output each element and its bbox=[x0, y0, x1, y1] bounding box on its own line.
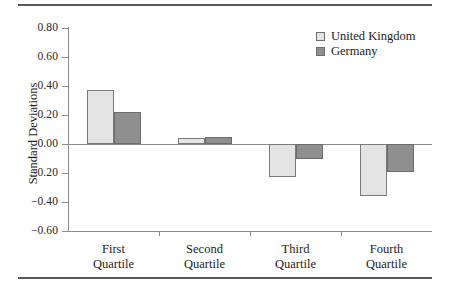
y-tick-label: 0.80 bbox=[12, 22, 58, 34]
y-tick-mark bbox=[62, 115, 68, 116]
x-category-label-line: Quartile bbox=[159, 257, 251, 272]
bar-united-kingdom bbox=[178, 138, 205, 144]
y-axis-line bbox=[68, 27, 69, 232]
y-tick-label: 0.40 bbox=[12, 80, 58, 92]
y-tick-label: 0.20 bbox=[12, 109, 58, 121]
y-tick-mark bbox=[62, 202, 68, 203]
bar-united-kingdom bbox=[360, 144, 387, 196]
legend-item-de: Germany bbox=[316, 44, 415, 59]
bottom-rule bbox=[18, 277, 432, 279]
x-category-label: SecondQuartile bbox=[159, 242, 251, 272]
legend-item-label: United Kingdom bbox=[331, 29, 415, 44]
bar-germany bbox=[296, 144, 323, 159]
y-tick-mark bbox=[62, 86, 68, 87]
x-category-label: ThirdQuartile bbox=[250, 242, 342, 272]
x-tick-mark bbox=[341, 231, 342, 236]
chart-legend: United KingdomGermany bbox=[316, 29, 415, 59]
y-tick-mark bbox=[62, 231, 68, 232]
x-tick-mark bbox=[250, 231, 251, 236]
x-category-label: FourthQuartile bbox=[341, 242, 433, 272]
y-tick-label: 0.00 bbox=[12, 138, 58, 150]
legend-swatch-icon bbox=[316, 47, 325, 56]
x-category-label-line: Quartile bbox=[341, 257, 433, 272]
x-category-label-line: Third bbox=[250, 242, 342, 257]
legend-item-uk: United Kingdom bbox=[316, 29, 415, 44]
bar-united-kingdom bbox=[269, 144, 296, 177]
bar-germany bbox=[387, 144, 414, 172]
y-tick-label: −0.20 bbox=[12, 167, 58, 179]
y-tick-label: −0.60 bbox=[12, 225, 58, 237]
legend-item-label: Germany bbox=[331, 44, 378, 59]
x-category-label-line: Quartile bbox=[68, 257, 160, 272]
x-category-label-line: Second bbox=[159, 242, 251, 257]
bar-germany bbox=[114, 112, 141, 144]
x-category-label-line: Quartile bbox=[250, 257, 342, 272]
legend-swatch-icon bbox=[316, 32, 325, 41]
y-tick-mark bbox=[62, 57, 68, 58]
y-tick-label: 0.60 bbox=[12, 51, 58, 63]
bar-germany bbox=[205, 137, 232, 144]
y-tick-mark bbox=[62, 173, 68, 174]
top-rule bbox=[18, 4, 432, 6]
y-tick-mark bbox=[62, 28, 68, 29]
y-tick-mark bbox=[62, 144, 68, 145]
x-category-label: FirstQuartile bbox=[68, 242, 160, 272]
bar-united-kingdom bbox=[87, 90, 114, 144]
bar-chart-figure: Standard Deviations 0.800.600.400.200.00… bbox=[0, 0, 450, 287]
x-tick-mark bbox=[159, 231, 160, 236]
y-tick-label: −0.40 bbox=[12, 196, 58, 208]
x-category-label-line: First bbox=[68, 242, 160, 257]
x-category-label-line: Fourth bbox=[341, 242, 433, 257]
